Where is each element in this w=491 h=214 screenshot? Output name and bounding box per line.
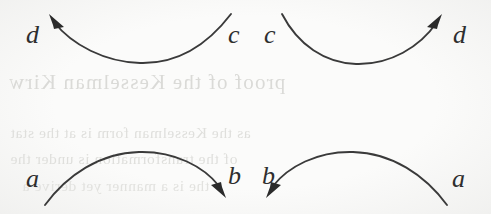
top-right-arc	[282, 14, 442, 64]
bottom-left-arrowhead-icon	[211, 182, 226, 198]
bottom-left-arc-path	[45, 152, 219, 205]
bottom-right-arc-path	[273, 152, 447, 205]
label-top-left-c: c	[228, 22, 240, 48]
top-left-arc	[49, 14, 231, 63]
top-right-arrowhead-icon	[427, 14, 442, 29]
label-bottom-left-b: b	[228, 163, 241, 189]
top-right-arc-path	[282, 14, 437, 64]
label-bottom-left-a: a	[26, 166, 39, 192]
top-left-arc-path	[54, 14, 231, 63]
label-top-left-d: d	[26, 22, 39, 48]
scanned-figure: proof of the Kesselman Kirw as the Kesse…	[0, 0, 491, 214]
top-left-arrowhead-icon	[49, 14, 64, 29]
label-top-right-c: c	[264, 22, 276, 48]
label-bottom-right-b: b	[262, 163, 275, 189]
bottom-left-arc	[45, 152, 226, 205]
arcs-drawing	[0, 0, 491, 214]
label-bottom-right-a: a	[452, 166, 465, 192]
bottom-right-arc	[266, 152, 447, 205]
label-top-right-d: d	[453, 22, 466, 48]
